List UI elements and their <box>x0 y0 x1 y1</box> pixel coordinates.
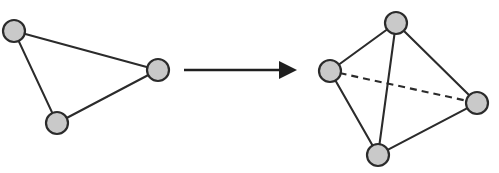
triangle-node-right <box>147 59 169 81</box>
arrow-head-icon <box>279 61 297 79</box>
tetrahedron-edge-top-to-bottom <box>379 33 394 146</box>
triangle-edge-bottom-left-to-right <box>66 75 150 119</box>
tetrahedron-group <box>319 12 488 166</box>
tetrahedron-edge-left-to-bottom <box>335 80 373 147</box>
tetrahedron-edge-left-to-right-hidden <box>340 73 468 101</box>
tetrahedron-node-bottom <box>367 144 389 166</box>
tetrahedron-node-left <box>319 60 341 82</box>
transformation-arrow <box>184 61 297 79</box>
triangle-edges <box>18 34 149 119</box>
tetrahedron-edge-right-to-bottom <box>387 108 469 151</box>
diagram-canvas <box>0 0 499 173</box>
tetrahedron-node-top <box>385 12 407 34</box>
simplex-transformation-figure <box>0 0 499 173</box>
triangle-node-bottom-left <box>46 112 68 134</box>
tetrahedron-edges <box>335 29 470 151</box>
triangle-edge-top-left-to-right <box>23 34 148 68</box>
triangle-edge-top-left-to-bottom-left <box>18 40 53 114</box>
tetrahedron-edge-top-to-right <box>403 30 470 96</box>
triangle-node-top-left <box>3 20 25 42</box>
tetrahedron-node-right <box>466 92 488 114</box>
triangle-group <box>3 20 169 134</box>
tetrahedron-edge-top-to-left <box>338 29 388 65</box>
